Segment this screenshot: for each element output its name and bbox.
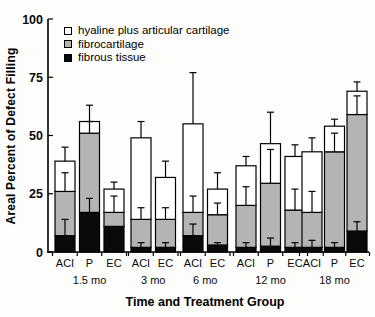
bar-segment-fibrous-ACI-6mo — [183, 236, 203, 252]
bar-segment-fibrous-ACI-12mo — [236, 247, 256, 252]
y-tick-label: 75 — [29, 71, 43, 85]
bar-segment-fibrocartilage-EC-18mo — [347, 115, 367, 232]
bar-segment-fibrocartilage-P-12mo — [261, 183, 281, 246]
bar-segment-fibrous-EC-6mo — [208, 245, 228, 252]
bar-label: P — [267, 257, 274, 269]
bar-label: ACI — [56, 257, 74, 269]
bar-segment-fibrous-P-12mo — [261, 246, 281, 252]
bar-label: ACI — [303, 257, 321, 269]
bar-segment-fibrous-ACI-1.5mo — [55, 236, 75, 252]
y-tick-label: 25 — [29, 187, 43, 201]
bar-label: ACI — [237, 257, 255, 269]
legend-label-fibrocartilage: fibrocartilage — [78, 38, 144, 51]
y-axis-title: Areal Percent of Defect Filling — [4, 48, 18, 225]
bar-segment-fibrous-ACI-18mo — [302, 247, 322, 252]
bar-label: ACI — [184, 257, 202, 269]
legend-label-fibrous: fibrous tissue — [78, 51, 146, 64]
group-label: 18 mo — [319, 274, 350, 286]
bar-label: EC — [349, 257, 364, 269]
bar-segment-fibrous-EC-1.5mo — [104, 226, 124, 252]
bar-label: EC — [287, 257, 302, 269]
group-label: 1.5 mo — [73, 274, 107, 286]
bar-label: EC — [158, 257, 173, 269]
bar-segment-fibrous-EC-3mo — [156, 247, 176, 252]
x-axis-title: Time and Treatment Group — [40, 295, 370, 309]
legend-item-hyaline: hyaline plus articular cartilage — [64, 24, 230, 38]
bar-segment-fibrous-P-18mo — [325, 247, 345, 252]
bar-segment-fibrous-ACI-3mo — [131, 247, 151, 252]
bar-segment-fibrocartilage-ACI-12mo — [236, 205, 256, 247]
bar-label: P — [331, 257, 338, 269]
legend: hyaline plus articular cartilage fibroca… — [64, 24, 230, 65]
bar-label: ACI — [132, 257, 150, 269]
bar-segment-fibrocartilage-P-18mo — [325, 152, 345, 248]
legend-swatch-hyaline-icon — [64, 27, 72, 35]
y-tick-label: 100 — [22, 13, 43, 27]
group-label: 6 mo — [193, 274, 217, 286]
y-tick-label: 0 — [36, 246, 43, 260]
legend-label-hyaline: hyaline plus articular cartilage — [78, 24, 230, 37]
legend-swatch-fibrocartilage-icon — [64, 40, 72, 48]
bar-segment-fibrocartilage-EC-1.5mo — [104, 212, 124, 226]
y-tick-label: 50 — [29, 129, 43, 143]
bar-label: EC — [210, 257, 225, 269]
bar-label: P — [86, 257, 93, 269]
group-label: 3 mo — [141, 274, 165, 286]
legend-item-fibrocartilage: fibrocartilage — [64, 38, 230, 52]
legend-item-fibrous: fibrous tissue — [64, 51, 230, 65]
bar-segment-fibrocartilage-EC-6mo — [208, 215, 228, 245]
legend-swatch-fibrous-icon — [64, 54, 72, 62]
bar-segment-fibrous-EC-18mo — [347, 231, 367, 252]
group-label: 12 mo — [255, 274, 286, 286]
bar-segment-fibrous-P-1.5mo — [80, 212, 100, 252]
figure: 0255075100ACIPEC1.5 moACIEC3 moACIEC6 mo… — [0, 0, 375, 317]
bar-label: EC — [106, 257, 121, 269]
